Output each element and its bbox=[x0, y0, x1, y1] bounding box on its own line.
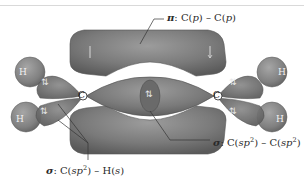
sigma-ch-lobe bbox=[218, 76, 263, 99]
carbon-label-right: C bbox=[213, 91, 220, 100]
electron-pair-icon: ⇅ bbox=[229, 107, 235, 116]
hydrogen-label: H bbox=[16, 115, 24, 124]
sigma-cc-bond-label: σ: C(sp2) – C(sp2) bbox=[213, 137, 301, 148]
hydrogen-label: H bbox=[278, 68, 286, 77]
electron-pair-icon: ⇅ bbox=[40, 107, 46, 116]
electron-pair-icon: ⇅ bbox=[145, 90, 151, 99]
electron-pair-icon: ⇅ bbox=[41, 78, 47, 87]
hydrogen-label: H bbox=[19, 68, 27, 77]
ethylene-orbital-diagram bbox=[0, 0, 304, 182]
pi-lobe-top bbox=[70, 30, 226, 76]
carbon-label-left: C bbox=[78, 91, 85, 100]
electron-pair-icon: ⇅ bbox=[229, 78, 235, 87]
hydrogen-label: H bbox=[276, 115, 284, 124]
pi-bond-label: π: C(p) – C(p) bbox=[167, 13, 236, 23]
sigma-ch-bond-label: σ: C(sp2) – H(s) bbox=[46, 165, 124, 176]
